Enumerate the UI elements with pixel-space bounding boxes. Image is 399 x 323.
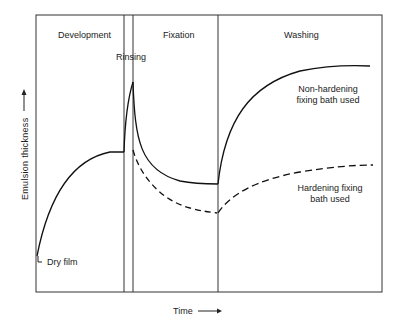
hardening-label-line1: Hardening fixing [285,183,375,194]
x-axis-label: Time [173,306,193,317]
development-curve [37,152,124,256]
plot-frame [36,15,382,292]
stage-label-rinsing: Rinsing [116,52,146,63]
y-axis-label: Emulsion thickness [20,118,30,200]
non-hardening-label-line2: fixing bath used [283,95,373,106]
non-hardening-label-line1: Non-hardening [283,84,373,95]
rinsing-spike [124,82,133,152]
thickness-arrowhead-icon [22,89,27,95]
hardening-label-line2: bath used [285,194,375,205]
time-arrowhead-icon [217,309,222,314]
fixation-curve-hardening [133,150,217,213]
stage-label-washing: Washing [284,30,319,41]
stage-label-fixation: Fixation [163,30,195,41]
chart-canvas [0,0,399,323]
stage-label-development: Development [58,30,111,41]
dry-film-label: Dry film [47,257,78,268]
fixation-curve-non-hardening [133,82,218,184]
y-axis-label-text: Emulsion thickness [20,118,30,200]
dry-film-marker [38,256,42,262]
